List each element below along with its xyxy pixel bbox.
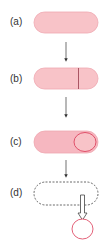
release-arrow-icon	[78, 195, 87, 220]
sporulation-diagram	[0, 0, 111, 241]
lysed-mother-cell-d	[34, 182, 98, 205]
forespore-c	[74, 133, 96, 152]
released-spore	[72, 219, 93, 239]
cell-b	[34, 68, 98, 89]
cell-a	[34, 12, 98, 33]
